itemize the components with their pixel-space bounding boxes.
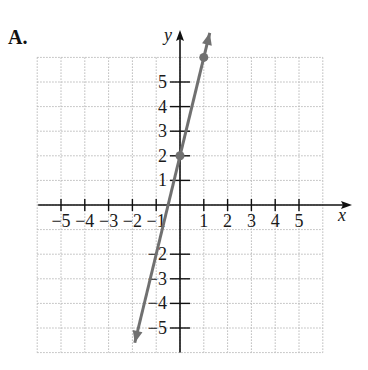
y-axis-label: y [162,25,172,45]
plotted-point [176,151,185,160]
y-tick-label: 2 [158,146,167,166]
x-axis-label: x [337,205,346,225]
y-tick-label: 5 [158,72,167,92]
y-tick-label: 3 [158,121,167,141]
coordinate-plane: xy−5−4−3−2−11234512345−2−3−4−5 [0,0,368,370]
x-tick-label: −5 [51,211,70,231]
y-tick-label: −4 [148,293,167,313]
plotted-point [199,53,208,62]
x-tick-label: −3 [99,211,118,231]
x-tick-label: −2 [123,211,142,231]
x-tick-label: 1 [199,211,208,231]
function-line [135,33,210,343]
y-tick-label: 1 [158,170,167,190]
x-tick-label: 2 [223,211,232,231]
y-tick-label: −5 [148,318,167,338]
x-tick-label: 4 [271,211,280,231]
x-tick-label: 5 [295,211,304,231]
x-tick-label: −4 [75,211,94,231]
y-tick-label: 4 [158,97,167,117]
x-tick-label: 3 [247,211,256,231]
